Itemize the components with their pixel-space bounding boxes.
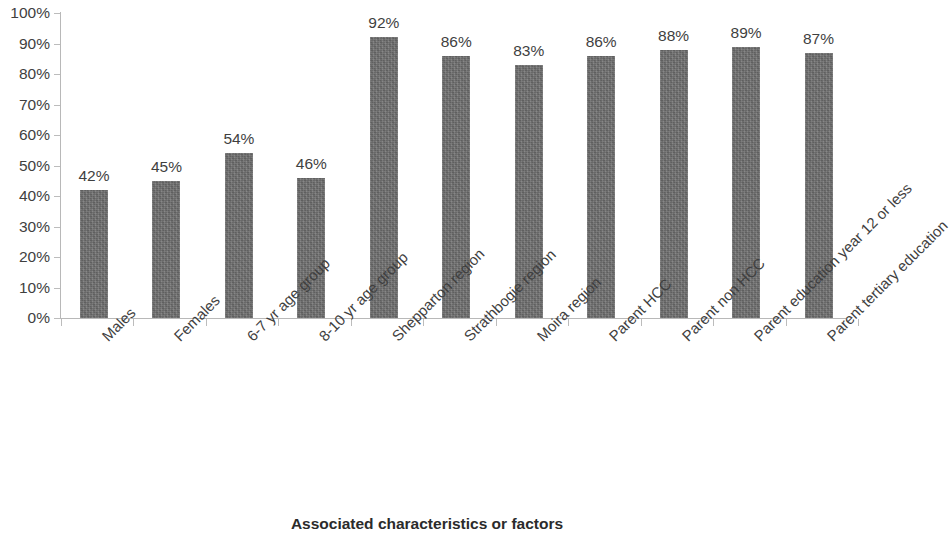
- bar-value-label: 54%: [209, 131, 269, 147]
- y-axis-tick-label: 20%: [0, 249, 50, 265]
- y-axis-tick: [54, 13, 60, 14]
- y-axis-tick: [54, 166, 60, 167]
- x-axis-category-label: Parent tertiary education: [824, 217, 950, 344]
- y-axis-tick: [54, 74, 60, 75]
- bar-value-label: 83%: [499, 43, 559, 59]
- y-axis-tick-label: 0%: [0, 310, 50, 326]
- y-axis-tick: [54, 227, 60, 228]
- y-axis-tick-label: 90%: [0, 36, 50, 52]
- y-axis-tick-label: 30%: [0, 219, 50, 235]
- y-axis-tick-label: 50%: [0, 158, 50, 174]
- y-axis-tick-label: 40%: [0, 188, 50, 204]
- x-axis-category-label: Parent education year 12 or less: [751, 180, 915, 344]
- bar-value-label: 46%: [281, 156, 341, 172]
- bar-value-label: 86%: [571, 34, 631, 50]
- y-axis-tick-label: 60%: [0, 127, 50, 143]
- y-axis-tick-label: 100%: [0, 5, 50, 21]
- x-axis-tick: [61, 319, 62, 326]
- y-axis-tick-label: 70%: [0, 97, 50, 113]
- y-axis-tick: [54, 135, 60, 136]
- bar: [225, 153, 253, 318]
- bar-value-label: 87%: [789, 31, 849, 47]
- y-axis-line: [60, 12, 61, 319]
- y-axis-tick: [54, 44, 60, 45]
- bar-value-label: 42%: [64, 168, 124, 184]
- bar-value-label: 45%: [136, 159, 196, 175]
- y-axis-tick: [54, 318, 60, 319]
- y-axis-tick: [54, 288, 60, 289]
- bar-value-label: 88%: [644, 28, 704, 44]
- y-axis-tick: [54, 105, 60, 106]
- bar-value-label: 89%: [716, 25, 776, 41]
- y-axis-tick: [54, 196, 60, 197]
- x-axis-title: Associated characteristics or factors: [0, 515, 854, 533]
- bar: [152, 181, 180, 318]
- y-axis-tick: [54, 257, 60, 258]
- y-axis-tick-label: 10%: [0, 280, 50, 296]
- bar-value-label: 86%: [426, 34, 486, 50]
- bar: [80, 190, 108, 318]
- x-axis-line: [60, 318, 846, 319]
- bar-value-label: 92%: [354, 15, 414, 31]
- y-axis-tick-label: 80%: [0, 66, 50, 82]
